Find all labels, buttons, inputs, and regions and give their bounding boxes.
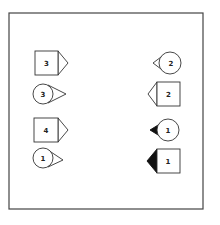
shape-label: 4 <box>44 127 49 135</box>
shape-label: 3 <box>41 91 46 99</box>
shape-label: 2 <box>169 60 174 68</box>
diagram-canvas: 3 3 4 1 2 2 1 1 <box>0 0 220 225</box>
shape-label: 3 <box>44 60 49 68</box>
shape-label: 1 <box>166 127 171 135</box>
shape-label: 2 <box>166 91 171 99</box>
shape-label: 1 <box>166 158 171 166</box>
shape-label: 1 <box>41 155 46 163</box>
diagram-frame <box>9 13 203 209</box>
